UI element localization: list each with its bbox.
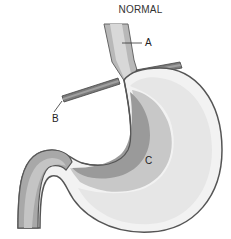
label-b: B	[52, 113, 59, 124]
leader-lines	[0, 0, 231, 239]
leader-line-b	[54, 101, 62, 112]
label-a: A	[145, 37, 152, 48]
label-c: C	[145, 155, 152, 166]
